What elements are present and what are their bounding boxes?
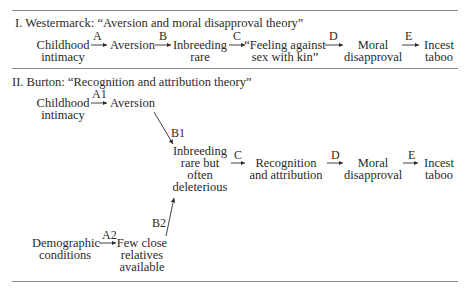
arrow-b2: [166, 198, 174, 236]
arrows-layer: [0, 0, 467, 289]
arrow-b1: [154, 112, 173, 144]
